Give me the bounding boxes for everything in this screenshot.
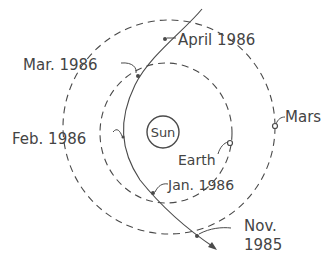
label-april-1986: April 1986 [178,31,255,49]
leader-jan [155,184,168,192]
mars-marker [273,124,278,129]
leader-march [121,63,136,73]
comet-dot-april [163,37,167,41]
label-mars: Mars [285,108,321,126]
comet-orbit-diagram: Sun April 1986 Mar. 1986 Feb. 1986 Jan. … [0,0,331,264]
comet-direction-arrow-icon [208,242,217,250]
sun-label: Sun [151,125,176,140]
earth-marker [228,141,233,146]
comet-dot-nov [195,234,199,238]
leader-nov [199,228,231,234]
label-jan-1986: Jan. 1986 [167,177,234,193]
label-mar-1986: Mar. 1986 [23,56,98,74]
leader-earth [218,142,228,154]
leader-mars [276,117,285,124]
label-earth: Earth [178,152,216,168]
comet-dot-march [136,74,140,78]
leader-feb [113,130,122,136]
comet-dot-jan [151,191,155,195]
label-feb-1986: Feb. 1986 [12,130,86,148]
label-nov: Nov. [244,217,277,235]
label-1985: 1985 [244,236,282,254]
